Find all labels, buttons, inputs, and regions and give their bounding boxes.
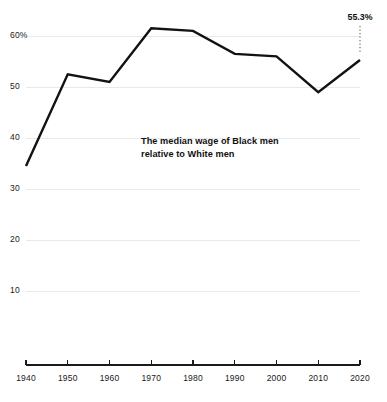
x-axis-tick-label-1960: 1960 <box>100 373 120 383</box>
x-axis-tick-label-1980: 1980 <box>183 373 203 383</box>
annotation-line-1: The median wage of Black men <box>141 135 279 148</box>
x-axis-tick-label-1970: 1970 <box>141 373 161 383</box>
chart-plot-area <box>0 0 387 402</box>
y-axis-tick-label-10: 10 <box>10 285 20 295</box>
x-axis-tick-label-2000: 2000 <box>267 373 287 383</box>
y-axis-tick-label-30: 30 <box>10 183 20 193</box>
y-axis-tick-label-60: 60% <box>10 30 28 40</box>
y-axis-tick-label-20: 20 <box>10 234 20 244</box>
x-axis-tick-label-1940: 1940 <box>16 373 36 383</box>
x-axis-tick-label-2010: 2010 <box>308 373 328 383</box>
x-axis-group <box>26 360 360 365</box>
x-axis-tick-label-1990: 1990 <box>225 373 245 383</box>
y-axis-tick-label-50: 50 <box>10 81 20 91</box>
chart-container: 102030405060% 19401950196019701980199020… <box>0 0 387 402</box>
annotation-line-2: relative to White men <box>141 148 279 161</box>
x-axis-tick-label-2020: 2020 <box>350 373 370 383</box>
end-point-value-label: 55.3% <box>348 12 373 22</box>
x-axis-tick-label-1950: 1950 <box>58 373 78 383</box>
chart-annotation: The median wage of Black men relative to… <box>141 135 279 162</box>
gridlines-group <box>26 36 360 291</box>
y-axis-tick-label-40: 40 <box>10 132 20 142</box>
